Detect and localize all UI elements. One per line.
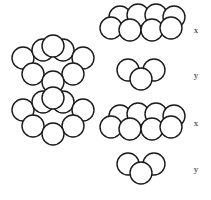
diagram-canvas: xyxy xyxy=(0,0,211,200)
layer-x-top: x xyxy=(100,4,199,41)
stack-sphere-2-4 xyxy=(42,87,64,109)
stack-sphere-3-2 xyxy=(42,123,64,145)
assembled-stack-group xyxy=(12,35,94,145)
sphere-packing-diagram: xyxy xyxy=(0,0,211,200)
layer-x-lower: x xyxy=(100,103,199,140)
layer-y-upper-front-sphere-0 xyxy=(130,68,152,90)
layer-y-upper-label: y xyxy=(194,70,199,80)
stack-layer-y-3 xyxy=(22,115,84,145)
layer-x-top-front-sphere-3 xyxy=(160,17,182,39)
layer-y-bottom-front-sphere-0 xyxy=(130,162,152,184)
layer-x-top-label: x xyxy=(194,25,199,35)
stack-sphere-3-1 xyxy=(62,115,84,137)
layer-x-top-front-sphere-1 xyxy=(119,19,141,41)
layer-y-upper: y xyxy=(117,59,199,90)
layer-y-bottom-label: y xyxy=(194,164,199,174)
layer-x-lower-label: x xyxy=(194,118,199,128)
stack-layer-x-2 xyxy=(12,87,94,121)
stack-layer-x-0 xyxy=(12,35,94,69)
layer-y-bottom: y xyxy=(117,153,199,184)
layer-x-lower-front-sphere-1 xyxy=(119,118,141,140)
stack-sphere-0-4 xyxy=(42,35,64,57)
stack-sphere-3-0 xyxy=(22,115,44,137)
layer-x-lower-front-sphere-3 xyxy=(160,116,182,138)
exploded-layers-group: xyxy xyxy=(100,4,199,184)
stack-sphere-1-1 xyxy=(62,63,84,85)
stack-sphere-1-0 xyxy=(22,63,44,85)
